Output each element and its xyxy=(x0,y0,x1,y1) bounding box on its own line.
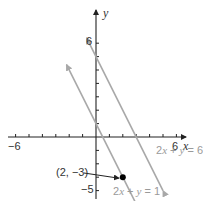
x-tick-label-min: −6 xyxy=(8,140,21,152)
y-axis-label: y xyxy=(102,6,109,20)
annotation-arrow xyxy=(84,173,119,178)
line-label-2x-plus-y-eq-6: 2x + y = 6 xyxy=(156,144,203,156)
line-series-1 xyxy=(87,38,163,191)
y-tick-label-max: 6 xyxy=(86,35,92,47)
line-series-2 xyxy=(67,65,138,201)
axes xyxy=(8,10,186,201)
y-tick-label-min: −5 xyxy=(81,183,94,195)
point-label: (2, −3) xyxy=(56,166,88,178)
point-marker xyxy=(120,174,126,180)
points xyxy=(84,173,126,180)
line-label-2x-plus-y-eq-1: 2x + y = 1 xyxy=(113,185,160,197)
coordinate-plane: x y −6 6 6 −5 (2, −3) 2x + y = 6 2x + y … xyxy=(0,0,203,201)
